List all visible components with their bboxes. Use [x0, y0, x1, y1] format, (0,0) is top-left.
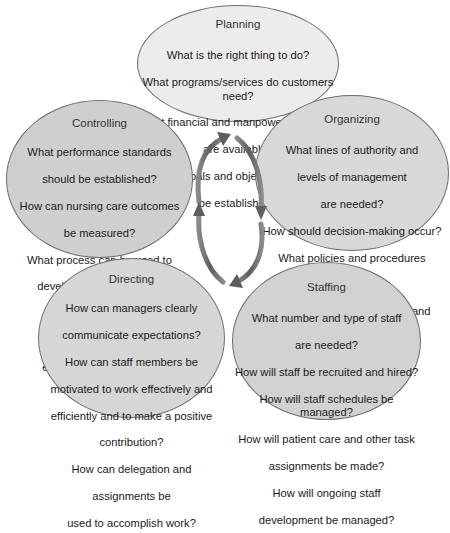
arrow-arc-bottom-right	[237, 224, 262, 282]
arrowhead-right	[255, 206, 267, 220]
planning-title: Planning	[216, 18, 261, 30]
arrow-arc-bottom-left	[199, 214, 223, 282]
question-line: assignments be	[50, 490, 212, 503]
question-line: motivated to work effectively and	[50, 383, 212, 396]
question-line: How can managers clearly	[50, 302, 212, 315]
question-line: contribution?	[50, 436, 212, 449]
question-line: are needed?	[262, 198, 441, 211]
question-line: What number and type of staff	[233, 312, 420, 325]
question-line: assignments be made?	[233, 460, 420, 473]
arrow-arc-top-left	[198, 138, 223, 202]
question-line: What is the right thing to do?	[138, 49, 338, 62]
staffing-questions: What number and type of staff are needed…	[233, 299, 420, 533]
directing-title: Directing	[109, 273, 154, 285]
question-line: What policies and procedures	[262, 252, 441, 265]
controlling-node: Controlling What performance standards s…	[6, 100, 193, 258]
question-line: efficiently and to make a positive	[50, 410, 212, 423]
organizing-node: Organizing What lines of authority and l…	[255, 95, 449, 251]
question-line: How should decision-making occur?	[262, 225, 441, 238]
question-line: How will staff be recruited and hired?	[233, 366, 420, 379]
question-line: levels of management	[262, 171, 441, 184]
arrowhead-left	[193, 202, 205, 216]
question-line: communicate expectations?	[50, 329, 212, 342]
question-line: How will staff schedules be managed?	[233, 393, 420, 420]
staffing-title: Staffing	[307, 281, 346, 293]
question-line: How can nursing care outcomes	[20, 200, 180, 213]
question-line: What lines of authority and	[262, 144, 441, 157]
directing-questions: How can managers clearly communicate exp…	[50, 289, 212, 533]
organizing-title: Organizing	[324, 113, 380, 125]
question-line: be measured?	[20, 227, 180, 240]
question-line: development be managed?	[233, 514, 420, 527]
question-line: What programs/services do customers need…	[138, 76, 338, 103]
circular-arrows-icon	[185, 130, 275, 290]
controlling-title: Controlling	[72, 117, 127, 129]
question-line: are needed?	[233, 339, 420, 352]
question-line: What performance standards	[20, 146, 180, 159]
arrow-arc-top-right	[237, 138, 261, 208]
question-line: How can staff members be	[50, 356, 212, 369]
question-line: should be established?	[20, 173, 180, 186]
question-line: How will ongoing staff	[233, 487, 420, 500]
question-line: How will patient care and other task	[233, 433, 420, 446]
question-line: used to accomplish work?	[50, 517, 212, 530]
question-line: How can delegation and	[50, 463, 212, 476]
